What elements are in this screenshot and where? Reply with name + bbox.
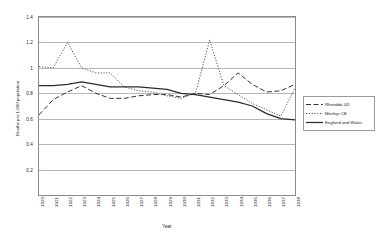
x-axis-tick-label: 1920 [40,197,45,207]
y-axis-tick-label: 1 [30,65,33,70]
x-axis-tick-label: 1934 [239,197,244,207]
x-axis-tick-label: 1932 [210,197,215,207]
x-axis-tick-label: 1926 [125,197,130,207]
series-lines [39,17,295,195]
chart-legend: Rhondda UDMerthyr CBEngland and Wales [303,96,375,131]
x-axis-tick-label: 1928 [153,197,158,207]
x-axis-tick-label: 1922 [68,197,73,207]
x-axis-tick-labels: 1920192119221923192419251926192719281929… [38,197,296,219]
legend-item: Rhondda UD [306,100,372,108]
x-axis-tick-label: 1927 [139,197,144,207]
y-axis-tick-labels: 0.20.40.60.811.21.4 [0,16,36,196]
legend-swatch-icon [306,101,323,108]
x-axis-tick-label: 1931 [196,197,201,207]
y-axis-tick-label: 0.6 [26,116,33,121]
x-axis-tick-label: 1930 [182,197,187,207]
y-axis-tick-label: 1.2 [26,40,33,45]
legend-item: England and Wales [306,118,372,126]
y-axis-tick-label: 0.8 [26,91,33,96]
x-axis-tick-label: 1936 [267,197,272,207]
legend-label: Merthyr CB [325,111,347,116]
x-axis-title: Year [38,224,296,229]
x-axis-tick-label: 1938 [296,197,301,207]
legend-swatch-icon [306,119,323,126]
legend-label: Rhondda UD [325,102,350,107]
series-line [39,40,295,116]
y-axis-tick-label: 0.4 [26,142,33,147]
y-axis-tick-label: 0.2 [26,167,33,172]
x-axis-tick-label: 1933 [224,197,229,207]
x-axis-tick-label: 1929 [168,197,173,207]
legend-swatch-icon [306,110,323,117]
plot-area [38,16,296,196]
chart-figure: Deaths per 1,000 population 0.20.40.60.8… [0,0,380,238]
legend-label: England and Wales [325,120,362,125]
y-axis-tick-label: 1.4 [26,15,33,20]
x-axis-tick-label: 1924 [96,197,101,207]
x-axis-tick-label: 1935 [253,197,258,207]
x-axis-tick-label: 1921 [54,197,59,207]
x-axis-tick-label: 1923 [82,197,87,207]
x-axis-tick-label: 1937 [281,197,286,207]
x-axis-tick-label: 1925 [111,197,116,207]
legend-item: Merthyr CB [306,109,372,117]
